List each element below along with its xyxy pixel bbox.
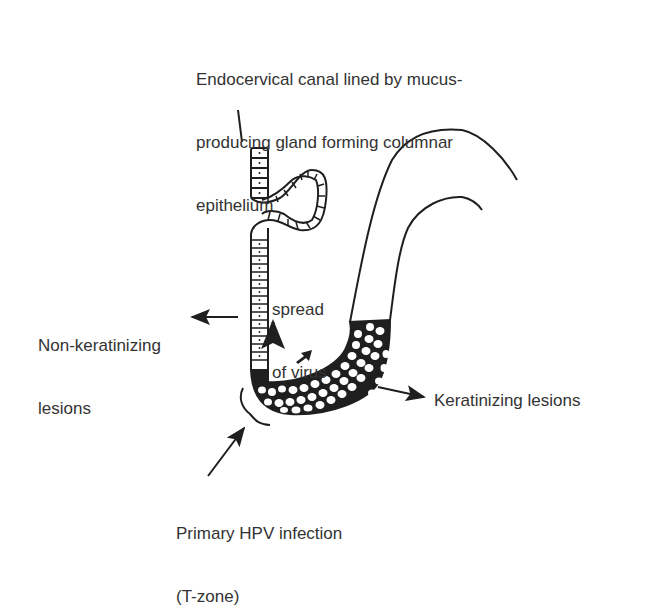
label-primary-hpv-line2: (T-zone): [176, 586, 342, 607]
label-keratinizing: Keratinizing lesions: [434, 390, 580, 411]
label-primary-hpv: Primary HPV infection (T-zone): [176, 481, 342, 609]
label-primary-hpv-line1: Primary HPV infection: [176, 523, 342, 544]
label-non-keratinizing-line2: lesions: [38, 398, 161, 419]
keratinizing-arrow: [378, 387, 424, 397]
label-endocervical: Endocervical canal lined by mucus- produ…: [196, 27, 462, 237]
label-spread-line1: spread: [272, 299, 327, 320]
label-non-keratinizing: Non-keratinizing lesions: [38, 293, 161, 440]
label-endocervical-line1: Endocervical canal lined by mucus-: [196, 69, 462, 90]
primary-hpv-arrow: [208, 428, 244, 476]
label-endocervical-line3: epithelium: [196, 195, 462, 216]
label-spread-of-virus: spread of virus: [272, 257, 327, 404]
label-spread-line2: of virus: [272, 362, 327, 383]
label-non-keratinizing-line1: Non-keratinizing: [38, 335, 161, 356]
label-endocervical-line2: producing gland forming columnar: [196, 132, 462, 153]
